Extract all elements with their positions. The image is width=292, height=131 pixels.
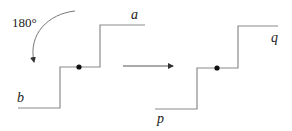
label-a: a <box>131 7 138 22</box>
label-q: q <box>271 30 278 45</box>
pivot-dot-left <box>76 64 81 69</box>
pivot-dot-right <box>214 65 219 70</box>
rotation-diagram: 180° a b q p <box>0 0 292 131</box>
rotation-arc <box>33 11 75 62</box>
rotation-angle-label: 180° <box>12 15 37 30</box>
label-b: b <box>17 90 24 105</box>
right-staircase <box>155 26 278 109</box>
label-p: p <box>156 111 164 126</box>
